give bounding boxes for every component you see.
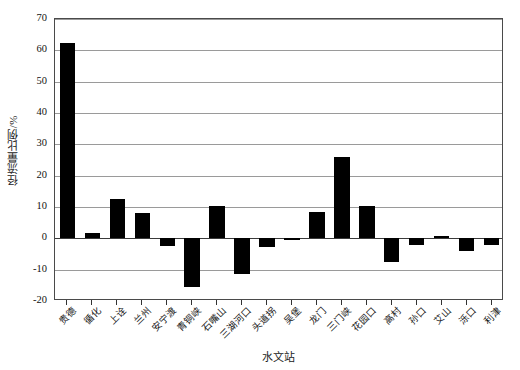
x-axis-category-label: 艾山 xyxy=(432,306,453,327)
x-axis-tick xyxy=(166,300,167,305)
x-axis-category-labels: 贵德循化上诠兰州安宁渡青铜峡石嘴山三湖河口头道拐吴堡龙门三门峡花园口高村孙口艾山… xyxy=(54,306,503,348)
x-axis-category-label: 利津 xyxy=(482,306,503,327)
x-axis-category-label: 孙口 xyxy=(408,306,429,327)
x-axis-category-label: 循化 xyxy=(83,306,104,327)
bar xyxy=(284,238,299,240)
bar xyxy=(334,157,349,238)
bar xyxy=(309,212,324,238)
bar xyxy=(484,238,499,244)
bar xyxy=(160,238,175,246)
x-axis-tick xyxy=(116,300,117,305)
x-axis-tick xyxy=(341,300,342,305)
bar xyxy=(234,238,249,274)
bar xyxy=(110,199,125,238)
x-axis-tick xyxy=(441,300,442,305)
x-axis-category-label: 花园口 xyxy=(351,306,379,334)
x-axis-category-label: 三门峡 xyxy=(326,306,354,334)
bar xyxy=(209,206,224,238)
bar xyxy=(434,236,449,239)
x-axis-tick xyxy=(66,300,67,305)
y-axis-tick-label: -10 xyxy=(33,263,47,274)
bar xyxy=(60,43,75,239)
x-axis-tick xyxy=(141,300,142,305)
bar xyxy=(85,233,100,238)
x-axis-tick xyxy=(191,300,192,305)
bar xyxy=(184,238,199,287)
x-axis-tick xyxy=(391,300,392,305)
y-axis-tick-label: 60 xyxy=(37,44,48,55)
y-axis-tick-label: 0 xyxy=(42,232,47,243)
y-axis-tick-label: 40 xyxy=(37,107,48,118)
x-axis-category-label: 高村 xyxy=(383,306,404,327)
runoff-proportion-bar-chart: 径流量比例/% 706050403020100-10-20 贵德循化上诠兰州安宁… xyxy=(0,0,520,370)
y-axis-title-text: 径流量比例/% xyxy=(5,115,21,186)
bar xyxy=(359,206,374,239)
y-axis-tick-label: -20 xyxy=(33,295,47,306)
x-axis-tick xyxy=(316,300,317,305)
x-axis-tick xyxy=(491,300,492,305)
x-axis-category-label: 贵德 xyxy=(58,306,79,327)
x-axis-title: 水文站 xyxy=(54,348,503,364)
bar xyxy=(459,238,474,251)
x-axis-category-label: 青铜峡 xyxy=(176,306,204,334)
bar xyxy=(409,238,424,245)
bar xyxy=(259,238,274,247)
y-axis-tick-label: 10 xyxy=(37,201,48,212)
x-axis-category-label: 安宁渡 xyxy=(151,306,179,334)
x-axis-category-label: 吴堡 xyxy=(283,306,304,327)
x-axis-tick xyxy=(366,300,367,305)
bar xyxy=(135,213,150,238)
y-axis-tick-label: 30 xyxy=(37,138,48,149)
bars-layer xyxy=(55,19,502,299)
plot-area xyxy=(54,18,503,300)
x-axis-tick xyxy=(241,300,242,305)
x-axis-tick xyxy=(416,300,417,305)
x-axis-tick xyxy=(466,300,467,305)
y-axis-tick-label: 50 xyxy=(37,75,48,86)
x-axis-category-label: 上诠 xyxy=(108,306,129,327)
x-axis-tick xyxy=(216,300,217,305)
x-axis-category-label: 泺口 xyxy=(457,306,478,327)
x-axis-category-label: 头道拐 xyxy=(251,306,279,334)
y-axis-tick-labels: 706050403020100-10-20 xyxy=(24,18,50,300)
y-axis-title: 径流量比例/% xyxy=(2,0,24,300)
y-axis-tick-label: 20 xyxy=(37,169,48,180)
x-axis-tick xyxy=(266,300,267,305)
y-axis-tick-label: 70 xyxy=(37,13,48,24)
x-axis-tick xyxy=(91,300,92,305)
bar xyxy=(384,238,399,262)
x-axis-tick xyxy=(291,300,292,305)
